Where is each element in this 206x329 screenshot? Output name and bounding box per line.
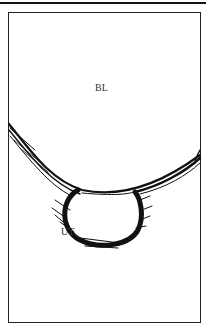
bladder-label: BL: [95, 82, 108, 93]
urethra-label: UT: [61, 226, 74, 237]
anatomy-drawing: [0, 0, 206, 329]
